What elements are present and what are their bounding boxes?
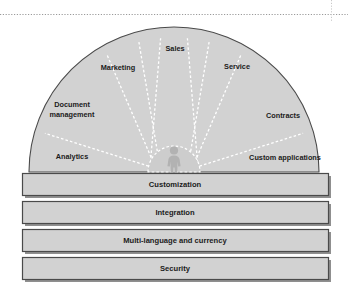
capability-fan: Analytics Document management Marketing …: [29, 27, 321, 174]
foundation-bar-multi-language-and-currency[interactable]: Multi-language and currency: [23, 230, 332, 255]
fan-segment-document-management-label-line1: Document: [54, 100, 90, 109]
multilanguage-bar-label: Multi-language and currency: [123, 236, 227, 245]
fan-segment-sales-label: Sales: [165, 44, 184, 53]
fan-segment-marketing-label: Marketing: [101, 63, 135, 72]
fan-segment-contracts-label: Contracts: [266, 111, 300, 120]
diagram-svg: Analytics Document management Marketing …: [0, 0, 348, 294]
fan-segment-analytics-label: Analytics: [56, 152, 88, 161]
person-head: [170, 146, 178, 154]
foundation-bar-customization[interactable]: Customization: [23, 174, 332, 199]
fan-segment-document-management-label-line2: management: [49, 110, 95, 119]
security-bar-label: Security: [160, 264, 191, 273]
foundation-stack: Customization Integration Multi-language…: [23, 174, 332, 283]
diagram-canvas: Analytics Document management Marketing …: [0, 0, 348, 294]
fan-segment-custom-applications-label: Custom applications: [249, 153, 321, 162]
customization-bar-label: Customization: [149, 180, 202, 189]
integration-bar-label: Integration: [155, 208, 195, 217]
foundation-bar-integration[interactable]: Integration: [23, 202, 332, 227]
fan-segment-service-label: Service: [224, 62, 250, 71]
foundation-bar-security[interactable]: Security: [23, 258, 332, 283]
